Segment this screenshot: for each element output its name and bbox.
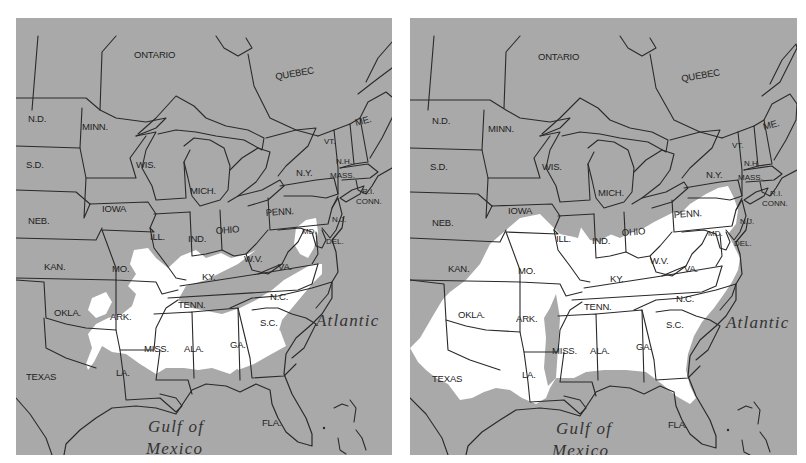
label-neb: NEB.	[28, 215, 49, 226]
label-conn: CONN.	[762, 199, 788, 208]
label-ala: ALA.	[184, 343, 204, 354]
label-la: LA.	[116, 367, 130, 378]
range-map-left: ONTARIO QUEBEC N.D. MINN. S.D. WIS. MICH…	[16, 18, 392, 455]
label-okla: OKLA.	[54, 307, 81, 318]
label-sc: S.C.	[666, 319, 684, 330]
label-wv: W.V.	[650, 255, 668, 266]
label-fla: FLA.	[668, 419, 687, 430]
map-svg-left: ONTARIO QUEBEC N.D. MINN. S.D. WIS. MICH…	[16, 18, 392, 455]
label-neb: NEB.	[432, 217, 453, 228]
label-gulf-2: Mexico	[145, 439, 203, 455]
label-sc: S.C.	[260, 317, 278, 328]
label-mich: MICH.	[190, 185, 216, 196]
label-ga: GA.	[636, 341, 652, 352]
label-kan: KAN.	[448, 263, 469, 274]
label-ny: N.Y.	[706, 169, 722, 180]
label-mass: MASS.	[330, 171, 355, 180]
label-nh: N.H.	[336, 157, 352, 166]
label-texas: TEXAS	[432, 373, 462, 384]
label-ill: ILL.	[150, 231, 165, 242]
label-mass: MASS.	[738, 173, 763, 182]
label-nd: N.D.	[28, 113, 46, 124]
label-del: DEL.	[734, 239, 752, 248]
label-penn: PENN.	[673, 207, 702, 220]
label-ark: ARK.	[516, 313, 537, 324]
label-ky: KY.	[610, 273, 624, 284]
label-texas: TEXAS	[26, 371, 56, 382]
map-svg-right: ONTARIO QUEBEC N.D. MINN. S.D. WIS. MICH…	[410, 18, 797, 455]
label-fla: FLA.	[262, 417, 281, 428]
label-ri: R.I.	[770, 189, 782, 198]
label-kan: KAN.	[44, 261, 65, 272]
label-me: ME.	[354, 113, 373, 128]
label-miss: MISS.	[552, 345, 577, 356]
label-md: MD.	[302, 227, 317, 236]
label-mo: MO.	[112, 263, 129, 274]
label-ontario: ONTARIO	[538, 51, 579, 62]
label-iowa: IOWA	[508, 205, 533, 216]
label-ala: ALA.	[590, 345, 610, 356]
label-gulf-2: Mexico	[551, 441, 609, 455]
label-del: DEL.	[326, 237, 344, 246]
label-va: VA.	[278, 261, 292, 272]
label-ill: ILL.	[556, 233, 571, 244]
label-nc: N.C.	[676, 293, 694, 304]
label-wis: WIS.	[136, 159, 156, 170]
label-ky: KY.	[202, 271, 216, 282]
label-la: LA.	[522, 369, 536, 380]
label-nj: N.J.	[332, 215, 346, 224]
label-quebec: QUEBEC	[680, 66, 721, 84]
label-va: VA.	[684, 263, 698, 274]
label-mo: MO.	[518, 265, 535, 276]
label-nc: N.C.	[270, 291, 288, 302]
label-ontario: ONTARIO	[134, 49, 175, 60]
label-ark: ARK.	[110, 311, 131, 322]
label-wv: W.V.	[244, 253, 262, 264]
label-ri: R.I.	[362, 187, 374, 196]
label-miss: MISS.	[144, 343, 169, 354]
label-nd: N.D.	[432, 115, 450, 126]
label-vt: VT.	[732, 141, 744, 150]
label-penn: PENN.	[265, 205, 294, 218]
label-mich: MICH.	[598, 187, 624, 198]
label-okla: OKLA.	[458, 309, 485, 320]
label-nh: N.H.	[744, 159, 760, 168]
label-tenn: TENN.	[178, 299, 206, 310]
label-ny: N.Y.	[296, 167, 312, 178]
range-map-right: ONTARIO QUEBEC N.D. MINN. S.D. WIS. MICH…	[410, 18, 797, 455]
label-sd: S.D.	[26, 159, 44, 170]
label-atlantic: Atlantic	[315, 311, 379, 330]
label-nj: N.J.	[740, 217, 754, 226]
label-ind: IND.	[188, 233, 206, 244]
label-gulf-1: Gulf of	[556, 419, 613, 438]
label-iowa: IOWA	[102, 203, 127, 214]
label-ohio: OHIO	[621, 225, 645, 238]
label-conn: CONN.	[356, 197, 382, 206]
label-sd: S.D.	[430, 161, 448, 172]
state-labels: ONTARIO QUEBEC N.D. MINN. S.D. WIS. MICH…	[26, 49, 382, 455]
label-minn: MINN.	[488, 123, 514, 134]
label-atlantic: Atlantic	[725, 313, 789, 332]
label-wis: WIS.	[542, 161, 562, 172]
label-md: MD.	[708, 229, 723, 238]
label-ind: IND.	[592, 235, 610, 246]
label-ohio: OHIO	[215, 223, 239, 236]
label-minn: MINN.	[82, 121, 108, 132]
label-tenn: TENN.	[584, 301, 612, 312]
label-gulf-1: Gulf of	[148, 417, 205, 436]
label-quebec: QUEBEC	[274, 64, 315, 82]
label-vt: VT.	[324, 137, 336, 146]
label-ga: GA.	[230, 339, 246, 350]
